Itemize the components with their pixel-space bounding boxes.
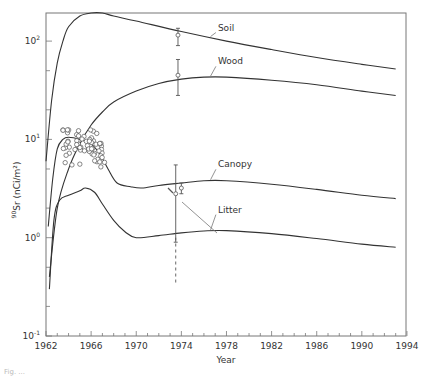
- label-wood: Wood: [218, 56, 243, 66]
- y-tick-label: 10-1: [23, 329, 41, 341]
- figure-caption: Fig. ...: [4, 368, 25, 376]
- series-labels: SoilWoodCanopyLitter: [211, 23, 253, 230]
- x-tick-label: 1970: [125, 341, 148, 351]
- series-wood: [49, 77, 395, 277]
- series-litter: [49, 188, 395, 289]
- y-tick-label: 101: [25, 132, 40, 144]
- x-tick-label: 1978: [215, 341, 238, 351]
- y-axis-label: 90Sr (nCi/m²): [10, 162, 22, 219]
- label-canopy: Canopy: [218, 159, 253, 169]
- label-litter: Litter: [218, 205, 242, 215]
- chart: 196219661970197419781982198619901994 10-…: [0, 0, 430, 378]
- x-tick-label: 1974: [170, 341, 193, 351]
- y-tick-label: 100: [25, 231, 40, 243]
- x-tick-label: 1986: [305, 341, 328, 351]
- scatter-points: [61, 128, 107, 169]
- connector-arrow-2: [168, 188, 173, 193]
- series-soil: [46, 13, 396, 162]
- x-tick-label: 1962: [35, 341, 58, 351]
- y-tick-label: 102: [25, 34, 40, 46]
- x-axis-ticks: 196219661970197419781982198619901994: [35, 331, 419, 351]
- x-tick-label: 1994: [396, 341, 419, 351]
- y-axis-ticks: 10-1100101102: [23, 34, 52, 341]
- observations: [174, 28, 184, 282]
- x-tick-label: 1982: [260, 341, 283, 351]
- x-tick-label: 1990: [350, 341, 373, 351]
- label-soil: Soil: [218, 23, 234, 33]
- connector-arrow: [182, 202, 217, 233]
- x-tick-label: 1966: [80, 341, 103, 351]
- svg-text:90Sr (nCi/m²): 90Sr (nCi/m²): [10, 162, 22, 219]
- x-axis-label: Year: [215, 355, 235, 365]
